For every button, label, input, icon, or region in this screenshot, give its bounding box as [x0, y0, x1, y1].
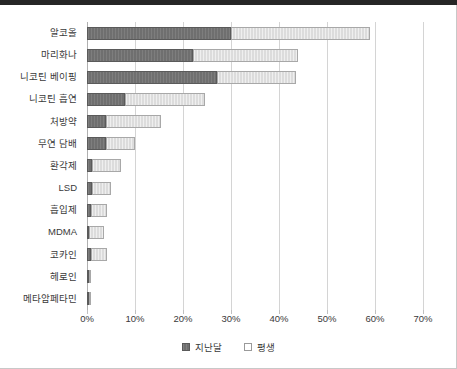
bar-row[interactable] — [87, 244, 423, 266]
bar-row[interactable] — [87, 66, 423, 88]
bar-segment[interactable] — [89, 226, 104, 239]
legend-label-lifetime: 평생 — [257, 340, 275, 354]
gridline-70 — [423, 22, 424, 310]
category-label: 무연 담배 — [0, 133, 77, 155]
stacked-bar[interactable] — [87, 248, 107, 261]
legend-item-last-month: 지난달 — [182, 340, 222, 354]
dark-gray-swatch — [182, 343, 190, 351]
category-label: 흡입제 — [0, 199, 77, 221]
bar-row[interactable] — [87, 177, 423, 199]
stacked-bar[interactable] — [87, 159, 121, 172]
bar-segment[interactable] — [87, 137, 106, 150]
stacked-bar[interactable] — [87, 137, 135, 150]
bar-segment[interactable] — [89, 292, 91, 305]
legend-label-last-month: 지난달 — [195, 340, 222, 354]
stacked-bar[interactable] — [87, 27, 370, 40]
x-axis-labels: 0%10%20%30%40%50%60%70% — [87, 313, 423, 329]
bar-row[interactable] — [87, 288, 423, 310]
bar-segment[interactable] — [106, 115, 161, 128]
bar-segment[interactable] — [92, 159, 121, 172]
bar-segment[interactable] — [125, 93, 204, 106]
chart-screenshot: 알코올마리화나니코틴 베이핑니코틴 흡연처방약무연 담배환각제LSD흡입제MDM… — [0, 0, 457, 369]
x-axis-label-20: 20% — [173, 313, 192, 324]
bar-row[interactable] — [87, 266, 423, 288]
chart-legend: 지난달 평생 — [0, 339, 457, 355]
x-axis-label-30: 30% — [221, 313, 240, 324]
bar-row[interactable] — [87, 155, 423, 177]
category-label: MDMA — [0, 221, 77, 243]
bar-row[interactable] — [87, 133, 423, 155]
bar-segment[interactable] — [89, 270, 91, 283]
x-axis-label-0: 0% — [80, 313, 94, 324]
bar-segment[interactable] — [87, 71, 217, 84]
bar-segment[interactable] — [92, 182, 111, 195]
category-label: 메타암페타민 — [0, 288, 77, 310]
x-axis-label-10: 10% — [125, 313, 144, 324]
stacked-bar[interactable] — [87, 226, 104, 239]
bar-segment[interactable] — [87, 49, 193, 62]
bar-segment[interactable] — [193, 49, 299, 62]
category-label: 환각제 — [0, 155, 77, 177]
legend-item-lifetime: 평생 — [244, 340, 275, 354]
stacked-bar[interactable] — [87, 71, 296, 84]
x-axis-label-60: 60% — [365, 313, 384, 324]
bar-segment[interactable] — [91, 204, 107, 217]
category-label: 헤로인 — [0, 266, 77, 288]
bar-row[interactable] — [87, 88, 423, 110]
bar-row[interactable] — [87, 221, 423, 243]
bar-segment[interactable] — [217, 71, 296, 84]
bar-segment[interactable] — [91, 248, 107, 261]
stacked-bar[interactable] — [87, 49, 298, 62]
stacked-bar[interactable] — [87, 182, 111, 195]
x-axis-label-70: 70% — [413, 313, 432, 324]
stacked-bar[interactable] — [87, 270, 91, 283]
light-gray-swatch — [244, 343, 252, 351]
category-label: 니코틴 베이핑 — [0, 66, 77, 88]
bar-row[interactable] — [87, 22, 423, 44]
stacked-bar[interactable] — [87, 204, 107, 217]
category-label: 처방약 — [0, 111, 77, 133]
category-axis-labels: 알코올마리화나니코틴 베이핑니코틴 흡연처방약무연 담배환각제LSD흡입제MDM… — [0, 22, 83, 310]
category-label: 알코올 — [0, 22, 77, 44]
bar-segment[interactable] — [87, 115, 106, 128]
bar-segment[interactable] — [231, 27, 370, 40]
stacked-bar[interactable] — [87, 93, 205, 106]
bar-rows — [87, 22, 423, 310]
stacked-bar[interactable] — [87, 292, 91, 305]
bar-row[interactable] — [87, 44, 423, 66]
bar-segment[interactable] — [87, 27, 231, 40]
x-axis-label-50: 50% — [317, 313, 336, 324]
bar-segment[interactable] — [106, 137, 135, 150]
bar-row[interactable] — [87, 111, 423, 133]
x-axis-label-40: 40% — [269, 313, 288, 324]
bar-row[interactable] — [87, 199, 423, 221]
stacked-bar[interactable] — [87, 115, 161, 128]
category-label: 마리화나 — [0, 44, 77, 66]
category-label: 니코틴 흡연 — [0, 88, 77, 110]
plot-area — [87, 22, 423, 310]
category-label: LSD — [0, 177, 77, 199]
category-label: 코카인 — [0, 244, 77, 266]
bar-segment[interactable] — [87, 93, 125, 106]
